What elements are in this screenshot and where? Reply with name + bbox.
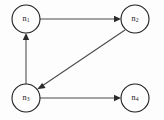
arrowhead-icon-n1-n2 (114, 16, 121, 22)
edge-n2-to-n3 (37, 30, 125, 89)
graph-canvas: n1 n2 n3 n4 (0, 0, 164, 120)
edge-line-n2-n3 (42, 30, 125, 86)
edge-n3-to-n4 (40, 95, 121, 101)
edge-n3-to-n1 (23, 33, 29, 84)
arrowhead-icon-n3-n1 (23, 33, 29, 40)
node-n2[interactable]: n2 (121, 5, 149, 33)
arrowhead-icon-n3-n4 (114, 95, 121, 101)
edge-n1-to-n2 (40, 16, 121, 22)
node-n4[interactable]: n4 (121, 84, 149, 112)
node-n3[interactable]: n3 (12, 84, 40, 112)
node-n1[interactable]: n1 (12, 5, 40, 33)
graph-diagram: n1 n2 n3 n4 (0, 0, 164, 120)
